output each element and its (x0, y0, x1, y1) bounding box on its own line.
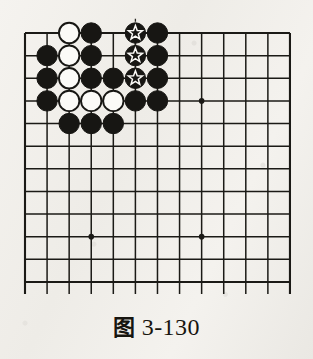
go-figure: 图 3-130 (0, 0, 313, 359)
stone-disc (103, 68, 123, 88)
hoshi-point (199, 98, 205, 104)
stone-disc (59, 91, 79, 111)
black-stone (81, 45, 101, 65)
go-board-canvas (0, 0, 313, 305)
stone-disc (103, 91, 123, 111)
white-stone (59, 68, 79, 88)
stone-disc (59, 113, 79, 133)
stone-disc (147, 23, 167, 43)
stone-disc (103, 113, 123, 133)
white-stone (59, 91, 79, 111)
black-stone (103, 68, 123, 88)
black-stone (37, 45, 57, 65)
black-stone (147, 45, 167, 65)
stone-disc (81, 91, 101, 111)
hoshi-point (88, 234, 94, 240)
black-stone (125, 23, 145, 43)
black-stone (81, 23, 101, 43)
white-stone (59, 23, 79, 43)
black-stone (125, 45, 145, 65)
stone-disc (81, 113, 101, 133)
hoshi-point (199, 234, 205, 240)
go-board (0, 0, 313, 305)
stone-disc (59, 45, 79, 65)
black-stone (125, 68, 145, 88)
black-stone (147, 23, 167, 43)
black-stone (81, 68, 101, 88)
black-stone (147, 68, 167, 88)
black-stone (59, 113, 79, 133)
stone-disc (147, 68, 167, 88)
black-stone (103, 113, 123, 133)
black-stone (125, 91, 145, 111)
stone-disc (81, 23, 101, 43)
stone-disc (59, 68, 79, 88)
caption-number: 3-130 (142, 314, 201, 340)
stone-disc (37, 68, 57, 88)
caption-label: 图 (113, 315, 136, 340)
stone-disc (125, 91, 145, 111)
black-stone (147, 91, 167, 111)
white-stone (103, 91, 123, 111)
white-stone (81, 91, 101, 111)
stone-disc (81, 68, 101, 88)
black-stone (37, 91, 57, 111)
stone-disc (37, 91, 57, 111)
black-stone (37, 68, 57, 88)
stone-disc (37, 45, 57, 65)
stone-disc (59, 23, 79, 43)
black-stone (81, 113, 101, 133)
stone-disc (147, 45, 167, 65)
stone-disc (147, 91, 167, 111)
figure-caption: 图 3-130 (0, 312, 313, 343)
white-stone (59, 45, 79, 65)
stone-disc (81, 45, 101, 65)
